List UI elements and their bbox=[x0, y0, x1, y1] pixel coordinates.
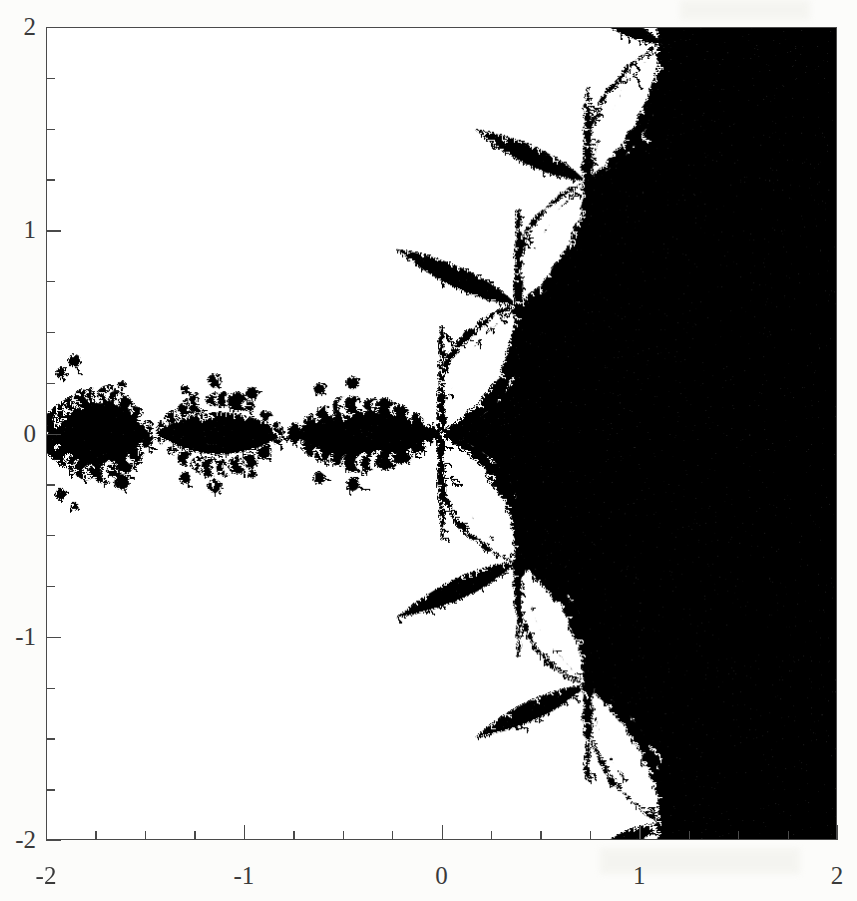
x-tick--2 bbox=[46, 825, 47, 840]
x-tick--1.25 bbox=[194, 831, 195, 840]
x-tick-0.25 bbox=[491, 831, 492, 840]
x-axis-label-2: 2 bbox=[831, 862, 844, 890]
y-tick-0.25 bbox=[46, 383, 55, 384]
x-tick-1.75 bbox=[788, 831, 789, 840]
x-tick-0.5 bbox=[540, 831, 541, 840]
y-tick-0 bbox=[46, 434, 61, 435]
y-tick-0.5 bbox=[46, 332, 55, 333]
y-tick--0.75 bbox=[46, 586, 55, 587]
y-tick--1.5 bbox=[46, 738, 55, 739]
y-tick-1.25 bbox=[46, 179, 55, 180]
x-axis-label-0: 0 bbox=[435, 862, 448, 890]
x-tick-1 bbox=[639, 825, 640, 840]
y-tick-1 bbox=[46, 230, 61, 231]
x-axis-label-1: 1 bbox=[633, 862, 646, 890]
y-axis-label-1: 1 bbox=[0, 216, 36, 244]
x-tick-2 bbox=[837, 825, 838, 840]
y-axis-label-0: 0 bbox=[0, 420, 36, 448]
x-tick-1.25 bbox=[689, 831, 690, 840]
y-axis-label--1: -1 bbox=[0, 623, 36, 651]
fractal-figure: -2-1012-2-1012 bbox=[0, 0, 857, 901]
y-tick--1.75 bbox=[46, 789, 55, 790]
y-axis-label--2: -2 bbox=[0, 826, 36, 854]
x-tick-0.75 bbox=[590, 831, 591, 840]
x-axis-label--1: -1 bbox=[233, 862, 254, 890]
x-tick--1 bbox=[244, 825, 245, 840]
fractal-image bbox=[47, 28, 836, 839]
y-tick--0.25 bbox=[46, 484, 55, 485]
scanned-page: -2-1012-2-1012 bbox=[0, 0, 857, 901]
y-tick-0.75 bbox=[46, 281, 55, 282]
y-axis-label-2: 2 bbox=[0, 13, 36, 41]
y-tick-1.5 bbox=[46, 129, 55, 130]
y-tick-1.75 bbox=[46, 78, 55, 79]
x-tick--1.75 bbox=[95, 831, 96, 840]
x-tick--0.5 bbox=[343, 831, 344, 840]
y-tick--2 bbox=[46, 840, 61, 841]
x-tick--0.75 bbox=[293, 831, 294, 840]
x-tick-0 bbox=[442, 825, 443, 840]
x-tick--1.5 bbox=[145, 831, 146, 840]
plot-area bbox=[46, 27, 837, 840]
x-tick-1.5 bbox=[738, 831, 739, 840]
y-tick-2 bbox=[46, 27, 61, 28]
x-axis-label--2: -2 bbox=[36, 862, 57, 890]
y-tick--1.25 bbox=[46, 688, 55, 689]
y-tick--0.5 bbox=[46, 535, 55, 536]
y-tick--1 bbox=[46, 637, 61, 638]
x-tick--0.25 bbox=[392, 831, 393, 840]
